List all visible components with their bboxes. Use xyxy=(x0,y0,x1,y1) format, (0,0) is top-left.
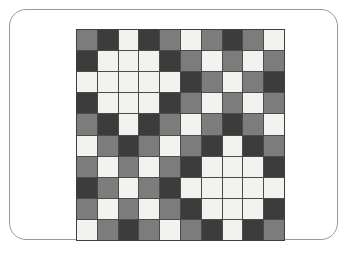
grid-cell xyxy=(243,93,263,113)
grid-cell xyxy=(139,199,159,219)
grid-cell xyxy=(264,136,284,156)
grid-cell xyxy=(139,114,159,134)
grid-cell xyxy=(98,30,118,50)
grid-cell xyxy=(223,30,243,50)
grid-cell xyxy=(119,51,139,71)
grid-cell xyxy=(98,114,118,134)
grid-cell xyxy=(264,178,284,198)
grid-cell xyxy=(202,114,222,134)
grid-cell xyxy=(243,157,263,177)
grid-cell xyxy=(223,157,243,177)
grid-cell xyxy=(181,220,201,240)
grid-cell xyxy=(181,30,201,50)
grid-cell xyxy=(202,199,222,219)
grid-cell xyxy=(119,136,139,156)
grid-cell xyxy=(77,93,97,113)
grid-cell xyxy=(160,199,180,219)
grid-cell xyxy=(223,114,243,134)
grid-cell xyxy=(160,51,180,71)
grid-cell xyxy=(264,51,284,71)
grid-cell xyxy=(77,178,97,198)
grid-cell xyxy=(77,51,97,71)
grid-cell xyxy=(139,157,159,177)
grid-cell xyxy=(119,30,139,50)
grid-cell xyxy=(202,51,222,71)
grid-cell xyxy=(223,199,243,219)
grid-cell xyxy=(98,51,118,71)
grid-cell xyxy=(264,157,284,177)
grid-cell xyxy=(264,72,284,92)
grid-cell xyxy=(98,157,118,177)
grid-cell xyxy=(202,178,222,198)
grid-cell xyxy=(77,30,97,50)
grid-cell xyxy=(243,114,263,134)
grid-cell xyxy=(202,30,222,50)
grid-cell xyxy=(160,220,180,240)
grid-cell xyxy=(181,72,201,92)
rounded-card-frame xyxy=(9,9,338,240)
screenshot-canvas xyxy=(0,0,348,257)
grid-cell xyxy=(139,220,159,240)
grid-cell xyxy=(119,220,139,240)
grid-cell xyxy=(264,199,284,219)
grid-cell xyxy=(243,199,263,219)
grid-cell xyxy=(119,199,139,219)
grid-cell xyxy=(264,93,284,113)
grid-cell xyxy=(98,136,118,156)
grid-cell xyxy=(77,157,97,177)
grid-cell xyxy=(243,220,263,240)
grid-cell xyxy=(264,30,284,50)
grid-cell xyxy=(181,93,201,113)
grid-cell xyxy=(98,220,118,240)
grid-cell xyxy=(139,136,159,156)
grid-cell xyxy=(77,199,97,219)
grid-cell xyxy=(119,178,139,198)
grid-cell xyxy=(160,114,180,134)
grid-cell xyxy=(160,157,180,177)
grid-cell xyxy=(181,114,201,134)
grid-cell xyxy=(77,220,97,240)
grid-cell xyxy=(98,72,118,92)
grid-cell xyxy=(264,114,284,134)
grid-cell xyxy=(223,136,243,156)
grid-cell xyxy=(77,136,97,156)
grid-cell xyxy=(160,136,180,156)
grid-cell xyxy=(202,136,222,156)
grid-cell xyxy=(223,93,243,113)
grid-cell xyxy=(181,178,201,198)
color-tile-grid xyxy=(77,30,284,240)
grid-cell xyxy=(98,178,118,198)
grid-cell xyxy=(139,93,159,113)
grid-cell xyxy=(202,220,222,240)
grid-cell xyxy=(264,220,284,240)
grid-cell xyxy=(160,178,180,198)
grid-cell xyxy=(202,157,222,177)
grid-cell xyxy=(223,178,243,198)
grid-cell xyxy=(139,178,159,198)
grid-cell xyxy=(160,30,180,50)
grid-cell xyxy=(223,220,243,240)
grid-cell xyxy=(119,93,139,113)
grid-cell xyxy=(119,114,139,134)
grid-cell xyxy=(181,199,201,219)
grid-cell xyxy=(160,93,180,113)
grid-cell xyxy=(181,157,201,177)
grid-cell xyxy=(139,72,159,92)
grid-cell xyxy=(223,51,243,71)
grid-cell xyxy=(160,72,180,92)
grid-cell xyxy=(181,51,201,71)
grid-cell xyxy=(243,30,263,50)
grid-cell xyxy=(223,72,243,92)
grid-cell xyxy=(243,178,263,198)
grid-cell xyxy=(139,30,159,50)
grid-cell xyxy=(77,114,97,134)
grid-cell xyxy=(243,136,263,156)
grid-cell xyxy=(119,72,139,92)
grid-cell xyxy=(243,72,263,92)
grid-cell xyxy=(139,51,159,71)
grid-cell xyxy=(202,93,222,113)
grid-cell xyxy=(119,157,139,177)
color-tile-grid-container xyxy=(76,29,285,241)
grid-cell xyxy=(202,72,222,92)
grid-cell xyxy=(98,199,118,219)
